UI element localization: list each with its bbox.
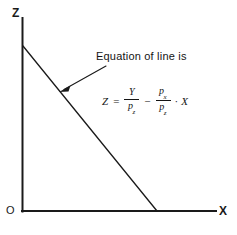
figure-canvas xyxy=(0,0,237,235)
equation-lhs: Z xyxy=(102,95,108,107)
equation-equals-sign: = xyxy=(113,95,119,107)
term-one-denominator: pz xyxy=(125,101,139,114)
equation-multiply-dot: · xyxy=(175,95,179,107)
equation-term-two: px pz xyxy=(156,86,171,116)
equation-variable-x: X xyxy=(181,95,188,107)
term-one-numerator: Y xyxy=(126,87,138,98)
equation-expression: Z = Y pz − px pz · X xyxy=(100,86,190,116)
equation-minus-sign: − xyxy=(144,95,150,107)
x-axis-label: X xyxy=(219,205,227,217)
origin-label: O xyxy=(6,205,15,216)
budget-line xyxy=(23,46,157,211)
annotation-arrow xyxy=(59,66,106,92)
equation-term-one: Y pz xyxy=(124,87,139,114)
term-two-numerator-subscript: x xyxy=(164,93,167,101)
term-two-denominator: pz xyxy=(156,102,170,115)
budget-line-figure: Z X O Equation of line is Z = Y pz − px … xyxy=(0,0,237,235)
annotation-caption: Equation of line is xyxy=(96,50,187,62)
z-axis-label: Z xyxy=(12,7,19,19)
term-two-numerator: px xyxy=(156,86,170,99)
term-one-denominator-subscript: z xyxy=(132,108,135,116)
